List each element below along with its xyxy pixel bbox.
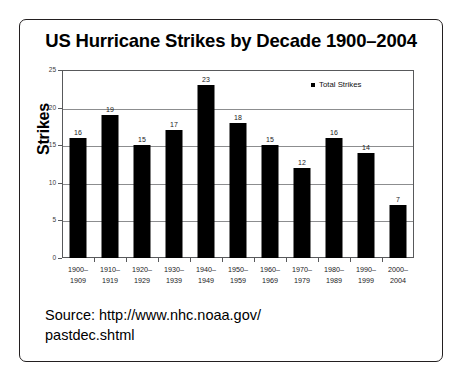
- bar-slot: 16: [62, 70, 94, 258]
- bar[interactable]: [262, 145, 279, 258]
- y-tick-mark: [58, 183, 62, 184]
- x-tick-mark: [254, 258, 255, 262]
- y-tick-mark: [58, 258, 62, 259]
- bar-slot: 12: [286, 70, 318, 258]
- bar-slot: 15: [126, 70, 158, 258]
- bar-value-label: 17: [170, 121, 178, 128]
- bar-slot: 19: [94, 70, 126, 258]
- y-tick-label: 10: [30, 179, 56, 186]
- y-tick-label: 25: [30, 66, 56, 73]
- x-tick-label-line: 2000–: [378, 265, 418, 276]
- x-tick-mark: [350, 258, 351, 262]
- bar-value-label: 14: [362, 144, 370, 151]
- hurricane-strikes-figure: US Hurricane Strikes by Decade 1900–2004…: [0, 0, 463, 380]
- y-tick-mark: [58, 220, 62, 221]
- y-tick-label: 15: [30, 141, 56, 148]
- y-tick-label: 5: [30, 216, 56, 223]
- bar-value-label: 16: [74, 129, 82, 136]
- bar-value-label: 16: [330, 129, 338, 136]
- bar-slot: 17: [158, 70, 190, 258]
- bar-value-label: 19: [106, 106, 114, 113]
- y-tick-mark: [58, 108, 62, 109]
- source-line-1: Source: http://www.nhc.noaa.gov/: [45, 305, 425, 325]
- bar-slot: 18: [222, 70, 254, 258]
- x-tick-mark: [126, 258, 127, 262]
- legend-label: Total Strikes: [319, 80, 361, 89]
- x-tick-mark: [158, 258, 159, 262]
- bar[interactable]: [230, 123, 247, 258]
- y-tick-mark: [58, 145, 62, 146]
- bar-slot: 14: [350, 70, 382, 258]
- bars-layer: 161915172318151216147: [62, 70, 414, 258]
- y-axis-label: Strikes: [35, 79, 53, 179]
- x-tick-mark: [94, 258, 95, 262]
- x-tick-mark: [222, 258, 223, 262]
- bar[interactable]: [70, 138, 87, 258]
- bar[interactable]: [134, 145, 151, 258]
- bar-slot: 7: [382, 70, 414, 258]
- x-tick-mark: [190, 258, 191, 262]
- bar-value-label: 15: [266, 136, 274, 143]
- bar[interactable]: [326, 138, 343, 258]
- bar[interactable]: [358, 153, 375, 258]
- legend-swatch-icon: [311, 83, 315, 87]
- chart-title: US Hurricane Strikes by Decade 1900–2004: [19, 30, 443, 52]
- x-tick-mark: [318, 258, 319, 262]
- bar[interactable]: [102, 115, 119, 258]
- bar-slot: 23: [190, 70, 222, 258]
- bar[interactable]: [198, 85, 215, 258]
- x-tick-label-line: 2004: [378, 276, 418, 287]
- bar-slot: 16: [318, 70, 350, 258]
- bar-value-label: 15: [138, 136, 146, 143]
- bar[interactable]: [294, 168, 311, 258]
- x-tick-mark: [382, 258, 383, 262]
- source-line-2: pastdec.shtml: [45, 325, 425, 345]
- x-tick-mark: [286, 258, 287, 262]
- bar-value-label: 18: [234, 114, 242, 121]
- y-tick-label: 20: [30, 104, 56, 111]
- x-tick-label: 2000–2004: [378, 265, 418, 286]
- source-caption: Source: http://www.nhc.noaa.gov/ pastdec…: [45, 305, 425, 345]
- bar-value-label: 12: [298, 159, 306, 166]
- bar-value-label: 23: [202, 76, 210, 83]
- y-tick-mark: [58, 70, 62, 71]
- bar-slot: 15: [254, 70, 286, 258]
- bar[interactable]: [390, 205, 407, 258]
- bar-value-label: 7: [396, 196, 400, 203]
- y-tick-label: 0: [30, 254, 56, 261]
- bar[interactable]: [166, 130, 183, 258]
- chart-legend: Total Strikes: [311, 80, 361, 89]
